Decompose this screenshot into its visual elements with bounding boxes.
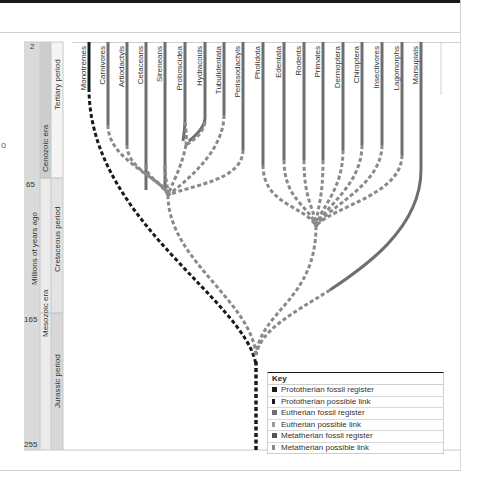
legend-item: Eutherian possible link [268, 420, 443, 432]
legend-item: Prototherian fossil register [268, 385, 443, 397]
taxon-label: Hydracoids [195, 46, 204, 86]
legend-label: Metatherian possible link [281, 443, 369, 452]
taxon-label: Edentata [274, 45, 283, 78]
era-label-cenozoic: Cenozoic era [41, 124, 50, 172]
taxon-label: Proboscidea [175, 45, 184, 90]
tick-label-165: 165 [24, 315, 38, 324]
legend-swatch-icon [272, 399, 275, 404]
taxon-label: Pholidota [253, 45, 262, 79]
legend-label: Prototherian fossil register [281, 385, 374, 394]
legend-label: Metatherian fossil register [281, 431, 373, 440]
legend-item: Metatherian fossil register [268, 431, 443, 443]
taxon-label: Artiodactyls [117, 46, 126, 87]
branch-link [168, 150, 243, 195]
taxon-label: Monotremes [79, 46, 88, 90]
taxon-label: Dermoptera [333, 45, 342, 88]
legend-label: Eutherian possible link [281, 420, 361, 429]
legend: Key Prototherian fossil registerProtothe… [267, 372, 444, 454]
period-label-tertiary: Tertiary period [53, 59, 62, 110]
legend-item: Eutherian fossil register [268, 408, 443, 420]
tick-label-255: 255 [24, 440, 38, 449]
branch-link [168, 145, 186, 195]
branch-link [316, 160, 323, 226]
legend-swatch-icon [272, 422, 275, 427]
branch-link [284, 160, 316, 226]
taxon-label: Chiroptera [352, 45, 361, 83]
legend-item: Prototherian possible link [268, 397, 443, 409]
branch-monotremes-link [89, 88, 256, 365]
period-label-jurassic: Jurassic period [53, 354, 62, 408]
taxon-label: Sireneans [155, 46, 164, 82]
axis-title: Millions of years ago [30, 212, 39, 285]
legend-swatch-icon [272, 410, 277, 415]
era-label-mesozoic: Mesozoic era [41, 289, 50, 337]
taxon-label: Cetaceans [136, 46, 145, 84]
branch-marsupials-link [256, 290, 330, 355]
taxon-label: Marsupials [411, 46, 420, 85]
taxon-label: Carnivores [98, 46, 107, 85]
taxon-label: Perissodactyls [233, 46, 242, 98]
tick-label-65: 65 [26, 180, 35, 189]
legend-title: Key [268, 373, 443, 385]
taxon-label: Tubulidentata [214, 45, 223, 94]
legend-swatch-icon [272, 433, 277, 438]
taxon-label: Rodents [294, 46, 303, 76]
taxon-label: Insectivores [372, 46, 381, 89]
taxon-label: Primates [313, 46, 322, 78]
taxon-label: Lagomorphs [392, 46, 401, 90]
legend-label: Eutherian fossil register [281, 408, 365, 417]
branch-link [168, 115, 224, 195]
legend-label: Prototherian possible link [281, 397, 370, 406]
taxa-labels: MonotremesCarnivoresArtiodactylsCetacean… [79, 42, 441, 98]
branch-link [168, 195, 256, 355]
branch-link [304, 160, 316, 226]
legend-item: Metatherian possible link [268, 443, 443, 454]
period-label-cretaceous: Cretaceous period [53, 207, 62, 272]
tick-label-2: 2 [30, 42, 35, 51]
legend-swatch-icon [272, 387, 277, 392]
legend-swatch-icon [272, 445, 275, 450]
